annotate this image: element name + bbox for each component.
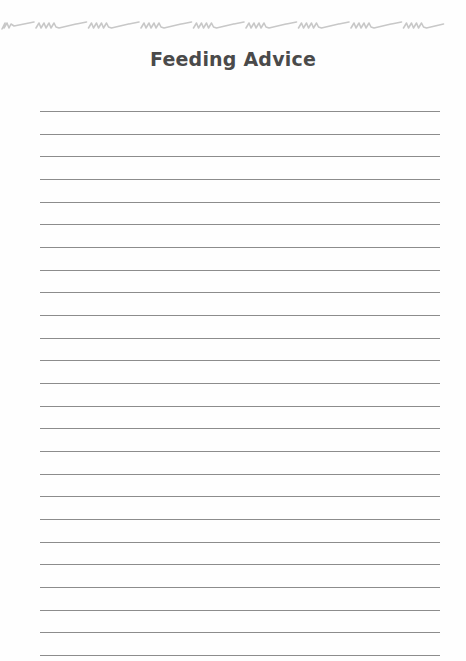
writing-line bbox=[40, 428, 440, 429]
writing-line bbox=[40, 179, 440, 180]
writing-line bbox=[40, 496, 440, 497]
writing-line bbox=[40, 474, 440, 475]
writing-line bbox=[40, 224, 440, 225]
writing-line bbox=[40, 610, 440, 611]
writing-line bbox=[40, 111, 440, 112]
writing-line bbox=[40, 247, 440, 248]
writing-line bbox=[40, 338, 440, 339]
writing-line bbox=[40, 542, 440, 543]
writing-line bbox=[40, 292, 440, 293]
writing-line bbox=[40, 587, 440, 588]
writing-line bbox=[40, 519, 440, 520]
writing-line bbox=[40, 360, 440, 361]
writing-line bbox=[40, 632, 440, 633]
writing-line bbox=[40, 156, 440, 157]
writing-line bbox=[40, 202, 440, 203]
notes-page: Feeding Advice bbox=[0, 0, 466, 661]
writing-line bbox=[40, 383, 440, 384]
writing-lines bbox=[40, 0, 440, 661]
writing-line bbox=[40, 406, 440, 407]
writing-line bbox=[40, 315, 440, 316]
writing-line bbox=[40, 134, 440, 135]
writing-line bbox=[40, 270, 440, 271]
writing-line bbox=[40, 451, 440, 452]
writing-line bbox=[40, 564, 440, 565]
writing-line bbox=[40, 655, 440, 656]
